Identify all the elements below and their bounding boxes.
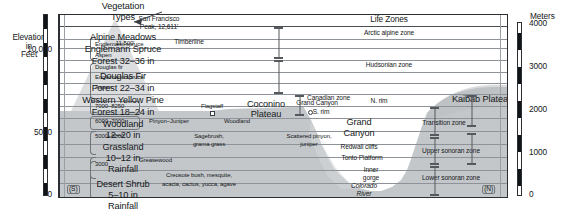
- label-inner-line-1: Inner: [364, 167, 379, 174]
- life-zone-canadian: Canadian zone: [307, 95, 350, 102]
- north-marker: (N): [482, 185, 495, 194]
- right-tick-4000: 4000: [529, 19, 547, 28]
- veg-label-grassland: Grassland: [103, 143, 144, 153]
- species-greasewood: Greasewood: [139, 157, 172, 163]
- grid-line-1: [59, 26, 507, 27]
- ibeam-transition: [430, 107, 439, 136]
- label-tonto-platform: Tonto Platform: [341, 155, 382, 162]
- label-coconino-line-2: Plateau: [251, 110, 281, 120]
- right-tick-0: 0: [529, 190, 534, 199]
- veg-label-douglas-fir: Douglas Fir: [100, 72, 146, 82]
- veg-label-desert-rainfall: Rainfall: [108, 202, 138, 210]
- plot-left-inner-rule: [64, 15, 65, 197]
- species-creosote-line-2: acacia, cactus, yucca, agave: [162, 181, 236, 187]
- veg-label-desert-shrub: Desert Shrub: [97, 180, 150, 190]
- species-creosote-line-1: Creosote bush, mesquite,: [166, 172, 232, 178]
- ibeam-kaibab-transition: [467, 95, 476, 127]
- figure-root: Elevation in Feet 10,000 5000 0 Meters 4…: [0, 0, 561, 210]
- veg-label-grassland-rainfall: Rainfall: [108, 165, 138, 175]
- life-zone-hudsonian: Hudsonian zone: [366, 62, 412, 69]
- plot-right-inner-rule: [500, 15, 501, 197]
- right-tick-1000: 1000: [529, 148, 547, 157]
- species-juniper: juniper: [300, 141, 317, 147]
- life-zone-transition: Transition zone: [422, 120, 465, 127]
- ibeam-arctic-alpine: [274, 27, 283, 59]
- veg-label-woodland: Woodland: [103, 120, 143, 130]
- life-zones-header: Life Zones: [370, 15, 408, 24]
- veg-label-douglas-forest: Forest 22–34 in: [92, 84, 154, 94]
- right-tick-2000: 2000: [529, 105, 547, 114]
- ibeam-upper-sonoran-right: [467, 133, 476, 165]
- species-pinyon-juniper: Pinyon–Juniper: [149, 118, 189, 124]
- right-scale-ladder: [517, 22, 522, 196]
- label-kaibab-plateau: Kaibab Plateau: [452, 95, 508, 105]
- ibeam-lower-sonoran: [430, 166, 439, 196]
- veg-label-englemann-spruce: Englemann Spruce: [85, 45, 162, 55]
- veg-label-western-forest: Forest 18–24 in: [92, 108, 154, 118]
- label-inner-line-2: gorge: [363, 175, 379, 182]
- right-tick-3000: 3000: [529, 62, 547, 71]
- south-marker: (S): [67, 185, 80, 194]
- left-tick-0: 0: [47, 190, 52, 199]
- left-scale-ladder: [43, 14, 48, 196]
- veg-label-woodland-rain: 12–20 in: [106, 131, 140, 141]
- label-s-rim: S. rim: [313, 109, 330, 116]
- s-rim-marker-icon: [308, 110, 313, 115]
- veg-label-grassland-rain: 10–12 in: [106, 154, 140, 164]
- label-timberline: Timberline: [174, 39, 204, 46]
- label-n-rim: N. rim: [371, 98, 388, 105]
- label-colorado-line-2: River: [357, 191, 372, 198]
- species-sagebrush: Sagebrush,: [194, 133, 224, 139]
- left-tick-10000: 10,000: [27, 45, 52, 54]
- sf-peak-leader-line: [130, 10, 170, 34]
- ibeam-canadian: [295, 95, 304, 116]
- label-redwall-cliffs: Redwall cliffs: [341, 144, 378, 151]
- veg-label-desert-rain: 5–10 in: [108, 191, 137, 201]
- ibeam-hudsonian: [274, 60, 283, 94]
- ibeam-upper-sonoran-left: [430, 137, 439, 165]
- veg-label-alpine-meadows: Alpine Meadows: [90, 33, 156, 43]
- label-colorado-line-1: Colorado: [351, 183, 377, 190]
- label-grand-line-1: Grand: [346, 118, 371, 128]
- species-woodland-mid: Woodland: [224, 118, 250, 124]
- plot-left-edge: [59, 15, 60, 197]
- veg-label-englemann-forest: Forest 32–36 in: [92, 57, 154, 67]
- label-grand-line-2: Canyon: [343, 129, 374, 139]
- label-flagstaff: Flagstaff: [201, 103, 223, 109]
- life-zone-arctic-alpine: Arctic alpine zone: [364, 30, 414, 37]
- species-grama-grass: grama grass: [193, 141, 225, 147]
- species-scattered-pinyon: Scattered pinyon,: [287, 133, 332, 139]
- flagstaff-town-icon: [210, 111, 215, 116]
- veg-label-western-yellow-pine: Western Yellow Pine: [82, 96, 164, 106]
